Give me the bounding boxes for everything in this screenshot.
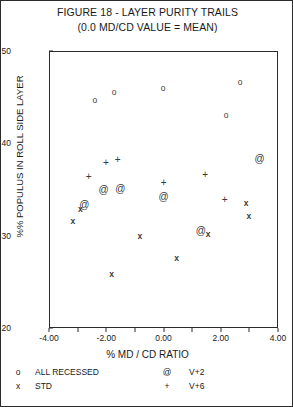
data-point-v-6: + [115,155,121,164]
legend-label: V+6 [189,381,249,391]
x-tick-mark [106,328,107,332]
x-axis-label: % MD / CD RATIO [1,349,293,360]
x-tick-mark [163,328,164,332]
x-tick-mark [192,328,193,332]
data-point-v-6: + [103,157,109,166]
x-tick-label: 2.00 [212,333,229,343]
legend-marker: @ [145,367,189,377]
data-point-all-recessed: o [224,110,229,119]
legend-marker: x [1,381,35,391]
data-point-all-recessed: o [93,96,98,105]
data-point-std: x [206,229,211,238]
y-tick-label: 40 [0,138,11,148]
y-tick-label: 30 [0,231,11,241]
data-point-std: x [109,269,114,278]
data-point-v-2: @ [79,200,89,209]
chart-subtitle: (0.0 MD/CD VALUE = MEAN) [1,20,293,35]
data-point-v-6: + [161,178,167,187]
x-tick-label: -4.00 [39,333,58,343]
legend-marker: o [1,367,35,377]
data-point-std: x [247,212,252,221]
y-axis-label: %% POPULUS IN ROLL SIDE LAYER [14,42,25,272]
data-points-layer: oooooxxxxxxxx@@@@@@++++++ [50,52,277,327]
x-tick-mark [77,328,78,332]
data-point-std: x [138,231,143,240]
data-point-std: x [244,199,249,208]
figure-container: FIGURE 18 - LAYER PURITY TRAILS (0.0 MD/… [0,0,293,407]
data-point-v-2: @ [159,192,169,201]
chart-title-block: FIGURE 18 - LAYER PURITY TRAILS (0.0 MD/… [1,5,293,35]
chart-legend: oALL RECESSED@V+2xSTD+V+6 [1,365,293,393]
y-tick-label: 20 [0,323,11,333]
legend-label: STD [35,381,145,391]
data-point-all-recessed: o [161,84,166,93]
data-point-std: x [71,216,76,225]
x-tick-mark [49,328,50,332]
data-point-all-recessed: o [112,87,117,96]
data-point-v-2: @ [254,154,264,163]
legend-label: V+2 [189,367,249,377]
data-point-v-2: @ [115,183,125,192]
x-tick-mark [249,328,250,332]
data-point-all-recessed: o [238,77,243,86]
x-tick-mark [134,328,135,332]
x-tick-label: -2.00 [97,333,116,343]
data-point-v-2: @ [196,226,206,235]
data-point-v-2: @ [98,184,108,193]
legend-label: ALL RECESSED [35,367,145,377]
legend-row: xSTD+V+6 [1,379,293,393]
legend-row: oALL RECESSED@V+2 [1,365,293,379]
chart-title: FIGURE 18 - LAYER PURITY TRAILS [1,5,293,20]
data-point-v-6: + [202,169,208,178]
x-tick-label: 0.00 [155,333,172,343]
x-tick-mark [278,328,279,332]
legend-marker: + [145,381,189,391]
plot-area: oooooxxxxxxxx@@@@@@++++++ [49,51,278,328]
x-tick-label: 4.00 [270,333,287,343]
x-tick-mark [220,328,221,332]
data-point-v-6: + [222,194,228,203]
data-point-std: x [174,253,179,262]
data-point-v-6: + [86,171,92,180]
y-tick-label: 50 [0,46,11,56]
